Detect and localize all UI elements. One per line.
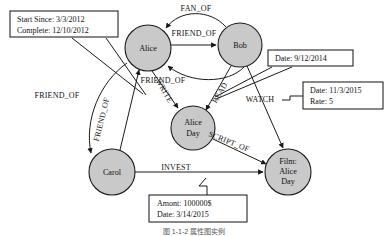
property-box-friend-of-line2: Complete: 12/10/2012 [17, 26, 89, 35]
edge-friend-of-4 [120, 70, 139, 150]
nodes-layer: Alice Bob Alice Day Carol Film: Alice Da… [89, 23, 311, 195]
node-film-label-line3: Day [281, 177, 296, 186]
leader-watch [282, 96, 303, 100]
node-carol[interactable]: Carol [89, 149, 135, 195]
node-alice-day-label-line2: Day [186, 129, 201, 138]
edge-fan-of [166, 14, 226, 28]
node-bob-label: Bob [233, 41, 247, 50]
node-film-label-line1: Film: [279, 157, 297, 166]
edge-label-friend-of-4: FRIEND_OF [92, 96, 112, 142]
property-box-invest-line2: Date: 3/14/2015 [157, 210, 209, 219]
edge-label-fan-of: FAN_OF [181, 4, 212, 13]
property-box-read-line1: Date: 9/12/2014 [275, 54, 327, 63]
edge-label-script-of: SCRIPT_OF [207, 129, 251, 154]
property-graph-svg: Alice Bob Alice Day Carol Film: Alice Da… [0, 0, 388, 236]
property-box-watch-line2: Rate: 5 [310, 97, 333, 106]
property-box-watch-line1: Date: 11/3/2015 [310, 86, 361, 95]
node-film-alice-day[interactable]: Film: Alice Day [265, 149, 311, 195]
property-box-friend-of-line1: Start Since: 3/3/2012 [17, 15, 85, 24]
node-film-label-line2: Alice [279, 167, 297, 176]
property-box-friend-of[interactable]: Start Since: 3/3/2012 Complete: 12/10/20… [10, 11, 118, 37]
edge-label-watch: WATCH [246, 95, 275, 104]
edge-label-friend-of-3: FRIEND_OF [35, 91, 80, 100]
edge-label-invest: INVEST [161, 163, 191, 172]
property-box-invest[interactable]: Amont: 100000$ Date: 3/14/2015 [149, 195, 247, 222]
leader-invest [199, 178, 207, 195]
node-alice[interactable]: Alice [125, 25, 171, 71]
node-alice-day-label-line1: Alice [184, 118, 202, 127]
node-alice-label: Alice [139, 44, 157, 53]
figure-canvas: Alice Bob Alice Day Carol Film: Alice Da… [0, 0, 388, 236]
property-box-invest-line1: Amont: 100000$ [157, 199, 211, 208]
node-carol-label: Carol [103, 168, 122, 177]
node-alice-day[interactable]: Alice Day [171, 106, 215, 150]
property-box-read[interactable]: Date: 9/12/2014 [268, 50, 353, 66]
edge-label-friend-of-1: FRIEND_OF [172, 29, 217, 38]
figure-caption: 图 1-1-2 属性图实例 [163, 227, 225, 236]
node-bob[interactable]: Bob [218, 23, 262, 67]
property-box-watch[interactable]: Date: 11/3/2015 Rate: 5 [303, 82, 383, 109]
edge-label-read: READ [210, 81, 229, 105]
